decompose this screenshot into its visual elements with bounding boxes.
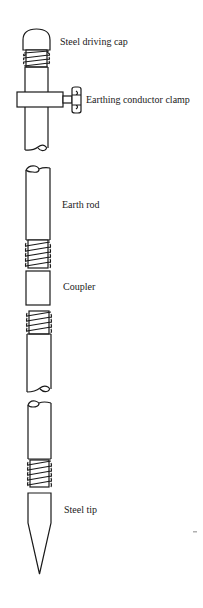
rod-thread-3 [28,460,52,487]
label-earthing-conductor-clamp: Earthing conductor clamp [86,95,190,105]
rod-thread-2 [27,311,52,334]
lower-rod-section-a [27,334,51,392]
smudge-mark [193,531,197,533]
earth-rod-diagram [0,0,203,608]
label-steel-tip: Steel tip [64,505,97,515]
lower-rod-section-b [28,401,51,459]
earth-rod-section [26,166,50,240]
steel-driving-cap [23,29,50,50]
cap-thread [24,50,50,67]
label-steel-driving-cap: Steel driving cap [60,37,128,47]
rod-thread-1 [26,240,51,268]
steel-tip [28,493,51,574]
earthing-conductor-clamp [17,87,81,113]
upper-rod-section [25,67,48,151]
label-earth-rod: Earth rod [62,200,100,210]
label-coupler: Coupler [63,282,95,292]
coupler [26,271,50,305]
